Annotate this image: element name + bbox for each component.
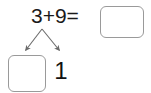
ones-digit-label: 1 [54,56,68,86]
arrow-to-tens-box [26,29,43,51]
worksheet-canvas: 3+9= 1 [0,0,151,93]
tens-answer-box[interactable] [8,55,46,92]
sum-answer-box[interactable] [100,6,144,38]
arrow-to-ones-digit [42,29,60,51]
equation-text: 3+9= [31,3,79,29]
